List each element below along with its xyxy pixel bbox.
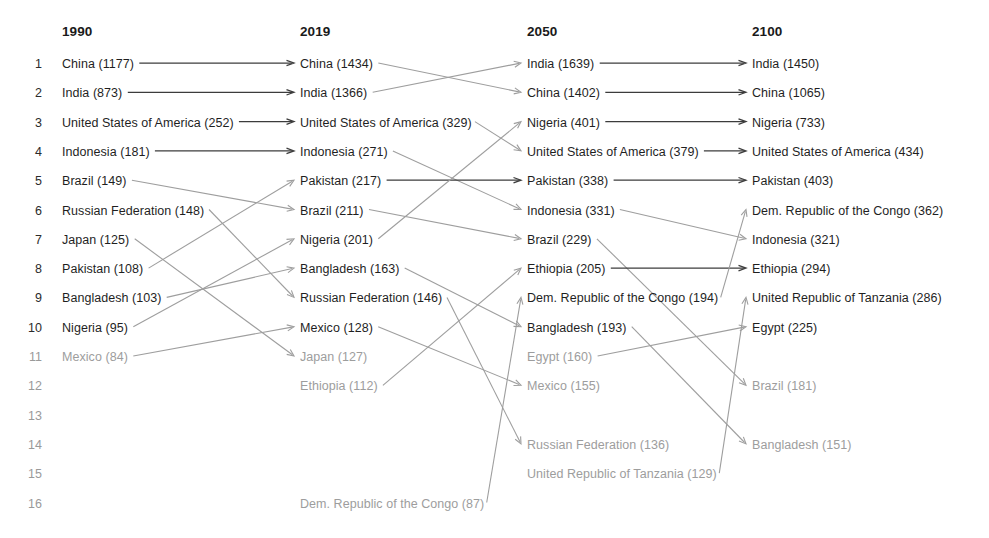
cell-2100-rank-4: United States of America (434)	[752, 145, 924, 159]
arrow-2050-10-to-2100-14	[632, 327, 746, 444]
rank-number-4: 4	[20, 145, 42, 159]
cell-2050-rank-9: Dem. Republic of the Congo (194)	[527, 291, 718, 305]
rank-number-8: 8	[20, 262, 42, 276]
rank-number-10: 10	[20, 321, 42, 335]
cell-1990-rank-3: United States of America (252)	[62, 116, 234, 130]
arrow-2050-3-to-2100-3	[605, 119, 746, 124]
arrow-2019-6-to-2050-7	[369, 210, 521, 241]
rank-number-11: 11	[20, 350, 42, 364]
arrow-2050-5-to-2100-5	[614, 178, 746, 183]
cell-2050-rank-8: Ethiopia (205)	[527, 262, 606, 276]
arrow-1990-11-to-2019-10	[133, 325, 294, 356]
cell-2019-rank-10: Mexico (128)	[300, 321, 373, 335]
arrow-2019-3-to-2050-4	[475, 122, 521, 151]
cell-2100-rank-9: United Republic of Tanzania (286)	[752, 291, 942, 305]
arrow-1990-8-to-2019-5	[149, 180, 294, 268]
cell-1990-rank-1: China (1177)	[62, 57, 134, 71]
arrow-2050-4-to-2100-4	[704, 148, 746, 153]
cell-1990-rank-5: Brazil (149)	[62, 174, 127, 188]
cell-2050-rank-6: Indonesia (331)	[527, 204, 615, 218]
cell-1990-rank-9: Bangladesh (103)	[62, 291, 161, 305]
cell-2019-rank-8: Bangladesh (163)	[300, 262, 399, 276]
rank-flow-chart: 1990201920502100 12345678910111213141516…	[0, 0, 989, 538]
column-header-1990: 1990	[62, 24, 92, 39]
arrow-1990-4-to-2019-4	[155, 148, 294, 153]
cell-2100-rank-5: Pakistan (403)	[752, 174, 833, 188]
cell-2100-rank-7: Indonesia (321)	[752, 233, 840, 247]
rank-number-7: 7	[20, 233, 42, 247]
arrow-2019-16-to-2050-9	[487, 297, 523, 502]
cell-2019-rank-12: Ethiopia (112)	[300, 379, 378, 393]
cell-2050-rank-7: Brazil (229)	[527, 233, 592, 247]
rank-link-arrows	[0, 0, 989, 538]
arrow-2019-1-to-2050-2	[378, 63, 521, 94]
rank-number-3: 3	[20, 116, 42, 130]
cell-2100-rank-8: Ethiopia (294)	[752, 262, 831, 276]
arrow-1990-10-to-2019-7	[133, 239, 294, 327]
arrow-2019-2-to-2050-1	[373, 61, 521, 92]
cell-2019-rank-16: Dem. Republic of the Congo (87)	[300, 497, 484, 511]
column-header-2019: 2019	[300, 24, 330, 39]
column-header-2050: 2050	[527, 24, 557, 39]
rank-number-9: 9	[20, 291, 42, 305]
cell-2050-rank-1: India (1639)	[527, 57, 594, 71]
rank-number-5: 5	[20, 174, 42, 188]
arrow-1990-1-to-2019-1	[139, 60, 294, 65]
cell-2050-rank-14: Russian Federation (136)	[527, 438, 669, 452]
arrow-2050-8-to-2100-8	[611, 265, 746, 270]
arrow-2050-15-to-2100-9	[719, 297, 748, 473]
arrow-2050-9-to-2100-6	[721, 210, 747, 298]
cell-2019-rank-3: United States of America (329)	[300, 116, 472, 130]
cell-2100-rank-14: Bangladesh (151)	[752, 438, 851, 452]
arrow-1990-6-to-2019-9	[209, 210, 294, 298]
cell-2019-rank-6: Brazil (211)	[300, 204, 364, 218]
cell-2019-rank-4: Indonesia (271)	[300, 145, 388, 159]
arrow-2050-1-to-2100-1	[600, 60, 746, 65]
arrow-2050-6-to-2100-7	[620, 210, 746, 241]
rank-number-16: 16	[20, 497, 42, 511]
arrow-2050-7-to-2100-12	[597, 239, 746, 385]
arrow-2019-12-to-2050-8	[383, 268, 521, 385]
arrow-1990-9-to-2019-8	[167, 267, 294, 298]
rank-number-12: 12	[20, 379, 42, 393]
arrow-2050-2-to-2100-2	[605, 90, 746, 95]
cell-2019-rank-7: Nigeria (201)	[300, 233, 373, 247]
rank-number-14: 14	[20, 438, 42, 452]
cell-1990-rank-10: Nigeria (95)	[62, 321, 128, 335]
cell-1990-rank-2: India (873)	[62, 86, 122, 100]
arrow-2019-4-to-2050-6	[393, 151, 521, 210]
cell-1990-rank-11: Mexico (84)	[62, 350, 128, 364]
rank-number-13: 13	[20, 409, 42, 423]
cell-2050-rank-4: United States of America (379)	[527, 145, 699, 159]
cell-2050-rank-11: Egypt (160)	[527, 350, 592, 364]
cell-2019-rank-11: Japan (127)	[300, 350, 367, 364]
cell-2100-rank-3: Nigeria (733)	[752, 116, 825, 130]
cell-2050-rank-2: China (1402)	[527, 86, 600, 100]
cell-2019-rank-9: Russian Federation (146)	[300, 291, 442, 305]
cell-2050-rank-10: Bangladesh (193)	[527, 321, 626, 335]
cell-1990-rank-7: Japan (125)	[62, 233, 129, 247]
cell-2019-rank-2: India (1366)	[300, 86, 367, 100]
arrow-2019-5-to-2050-5	[387, 178, 521, 183]
cell-2100-rank-6: Dem. Republic of the Congo (362)	[752, 204, 943, 218]
cell-2100-rank-10: Egypt (225)	[752, 321, 817, 335]
arrow-2019-10-to-2050-12	[378, 327, 521, 386]
arrow-1990-2-to-2019-2	[128, 90, 294, 95]
cell-2100-rank-2: China (1065)	[752, 86, 825, 100]
arrow-2019-7-to-2050-3	[378, 122, 521, 239]
rank-number-2: 2	[20, 86, 42, 100]
rank-number-6: 6	[20, 204, 42, 218]
cell-2100-rank-12: Brazil (181)	[752, 379, 817, 393]
column-header-2100: 2100	[752, 24, 782, 39]
cell-2050-rank-5: Pakistan (338)	[527, 174, 608, 188]
cell-2050-rank-15: United Republic of Tanzania (129)	[527, 467, 717, 481]
cell-2100-rank-1: India (1450)	[752, 57, 819, 71]
cell-1990-rank-6: Russian Federation (148)	[62, 204, 204, 218]
cell-2050-rank-3: Nigeria (401)	[527, 116, 600, 130]
cell-1990-rank-8: Pakistan (108)	[62, 262, 143, 276]
cell-2019-rank-5: Pakistan (217)	[300, 174, 381, 188]
arrow-2019-9-to-2050-14	[447, 297, 521, 444]
cell-2019-rank-1: China (1434)	[300, 57, 373, 71]
rank-number-15: 15	[20, 467, 42, 481]
cell-2050-rank-12: Mexico (155)	[527, 379, 600, 393]
